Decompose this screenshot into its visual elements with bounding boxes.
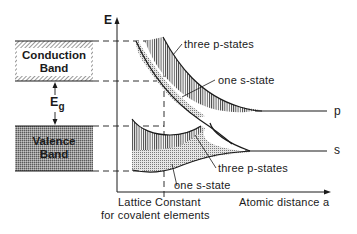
y-axis-label: E [104,14,112,26]
lower-s-state-annotation: one s-state [174,179,231,191]
band-diagram: E Atomic distance a Conduction Band Vale… [0,0,357,234]
conduction-band-label-line1: Conduction [18,49,90,62]
x-axis-label: Atomic distance a [239,196,329,208]
valence-band-label-line1: Valence [18,135,90,148]
conduction-band-label: Conduction Band [18,49,90,75]
lattice-constant-label-line1: Lattice Constant [118,196,201,208]
upper-s-state-annotation: one s-state [218,74,275,86]
s-level-label: s [334,144,340,156]
conduction-band-label-line2: Band [18,62,90,75]
upper-p-states-annotation: three p-states [184,38,254,50]
valence-band-label-line2: Band [18,148,90,161]
band-gap-symbol: E [50,95,59,109]
valence-band-label: Valence Band [18,135,90,161]
band-gap-subscript: g [59,101,65,112]
atomic-levels [245,111,327,151]
band-gap-label: Eg [50,96,65,109]
lower-p-states-annotation: three p-states [218,162,288,174]
p-level-label: p [334,105,341,117]
lattice-constant-label-line2: for covalent elements [101,209,210,221]
